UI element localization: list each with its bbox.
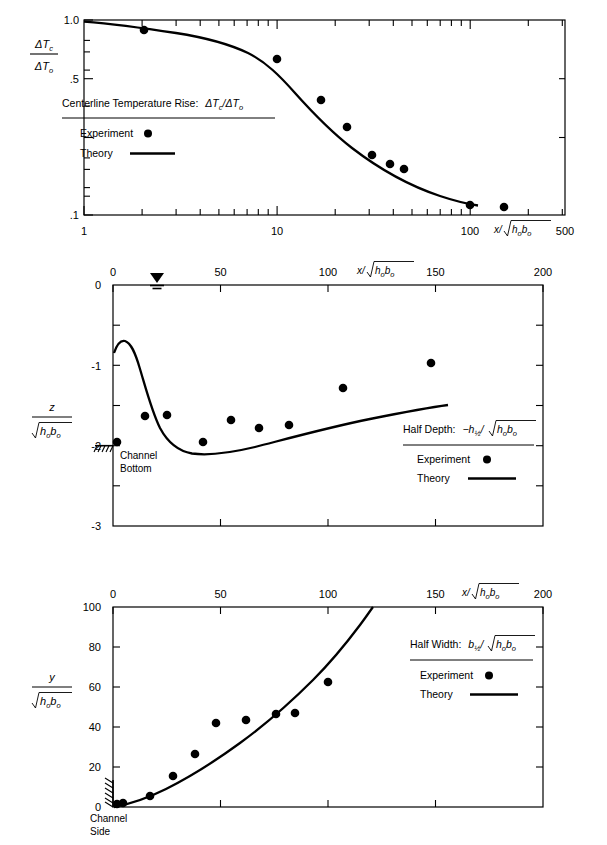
data-point (317, 96, 326, 105)
panel1-y-axis-title: ΔTc ΔTo (30, 38, 58, 75)
panel1-legend-title-text: Centerline Temperature Rise: (62, 97, 198, 109)
panel1-xtick-4: 500 (556, 225, 574, 237)
data-point (140, 26, 149, 35)
panel2-legend-slash: / (480, 423, 485, 435)
data-point (141, 412, 150, 421)
data-point (227, 416, 236, 425)
panel2-ylabel-num: z (48, 401, 55, 413)
panel2-ylabel-den-hb-sub: o (56, 431, 60, 440)
panel1-x-ticks-bottom (84, 206, 562, 215)
panel3-ytick-5: 20 (89, 761, 101, 773)
panel2-legend-experiment-marker (483, 456, 491, 464)
panel3-ytick-6: 0 (95, 801, 101, 813)
data-point (255, 424, 264, 433)
panel1-ylabel-den: ΔT (34, 60, 50, 72)
panel3-experiment-points (113, 678, 333, 809)
data-point (119, 799, 128, 808)
panel2-theory-curve (114, 341, 448, 455)
panel2-legend-title: Half Depth: −h½/ (403, 423, 485, 438)
panel2-legend-title-text: Half Depth: (403, 423, 456, 435)
panel3-theory-curve (114, 607, 373, 807)
panel2-y-ticks (113, 325, 543, 486)
panel2-legend-hb-sub: o (513, 429, 517, 438)
panel1-theory-curve (84, 22, 478, 206)
svg-text:hobo: hobo (512, 224, 531, 238)
data-point (146, 792, 155, 801)
panel3-legend-experiment-marker (485, 672, 493, 680)
panel2-ytick-4: -3 (91, 520, 101, 532)
svg-text:ΔTc: ΔTc (34, 38, 53, 53)
data-point (339, 384, 348, 393)
panel3-legend-title-text: Half Width: (410, 638, 461, 650)
svg-text:hobo: hobo (480, 587, 499, 601)
panel3-ytick-4: 40 (89, 721, 101, 733)
panel3-ytick-1: 100 (83, 601, 101, 613)
panel1-ylabel-num: ΔT (34, 38, 50, 50)
data-point (272, 710, 281, 719)
data-point (291, 709, 300, 718)
svg-text:x/: x/ (356, 265, 366, 276)
panel3-ytick-2: 80 (89, 641, 101, 653)
panel3-legend-experiment-label: Experiment (420, 669, 473, 681)
svg-text:hobo: hobo (375, 265, 394, 279)
panel1-xlabel-hb-sub: o (527, 229, 531, 238)
panel3-legend-hb-sub: o (512, 644, 516, 653)
panel2-xtick-4: 150 (426, 266, 444, 278)
panel2-experiment-points (113, 359, 436, 447)
panel2-legend-hhalf: −h (462, 423, 474, 435)
panel1-ylabel-den-sub: o (49, 66, 53, 75)
data-point (191, 750, 200, 759)
panel3-xlabel-lead: x/ (461, 587, 471, 598)
panel2-xlabel-lead: x/ (356, 265, 366, 276)
panel3-ylabel-num: y (48, 671, 56, 683)
data-point (285, 421, 294, 430)
data-point (169, 772, 178, 781)
svg-text:ΔTo: ΔTo (34, 60, 53, 75)
water-surface-triangle-icon (150, 273, 164, 289)
panel3-legend: Half Width: b½/ hobo Experiment Theory (410, 636, 535, 701)
data-point (199, 438, 208, 447)
panel1-legend-title: Centerline Temperature Rise: ΔTc/ΔTo (62, 97, 243, 112)
panel2-axes (113, 285, 543, 526)
panel1-legend-experiment-label: Experiment (80, 127, 133, 139)
data-point (273, 55, 282, 64)
panel3-xtick-1: 0 (110, 588, 116, 600)
panel3-legend-theory-label: Theory (420, 688, 453, 700)
figure-root: 1.0 .5 .1 1 10 100 500 ΔTc ΔTo x/ (0, 0, 607, 845)
panel3-xtick-4: 150 (426, 588, 444, 600)
panel3-xtick-3: 100 (319, 588, 337, 600)
panel1-legend-theory-label: Theory (80, 147, 113, 159)
panel2-xtick-2: 50 (214, 266, 226, 278)
panel1-ytick-2: .5 (70, 73, 79, 85)
panel2-x-axis-title: x/ hobo (356, 262, 414, 280)
panel2-ytick-1: 0 (95, 279, 101, 291)
data-point (163, 411, 172, 420)
panel3-legend-slash: / (479, 638, 484, 650)
svg-text:x/: x/ (493, 224, 503, 235)
data-point (368, 151, 377, 160)
data-point (427, 359, 436, 368)
svg-text:hobo: hobo (40, 695, 61, 710)
panel2-xtick-3: 100 (319, 266, 337, 278)
panel2-channel-bottom-line1: Channel (120, 450, 157, 461)
panel1-ytick-1: 1.0 (64, 14, 79, 26)
panel2-xlabel-hb-sub: o (390, 270, 394, 279)
panel2-x-ticks-bottom (221, 519, 436, 526)
panel2-legend-experiment-label: Experiment (417, 453, 470, 465)
data-point (343, 123, 352, 132)
panel3-x-ticks-bottom (221, 800, 436, 807)
panel2-legend-theory-label: Theory (417, 472, 450, 484)
svg-text:hobo: hobo (40, 425, 61, 440)
chart-panel-half-depth: 0 50 100 150 200 x/ hobo 0 -1 -2 -3 (0, 248, 607, 538)
panel2-ytick-2: -1 (91, 360, 101, 372)
panel3-ylabel-den-hb-sub: o (56, 701, 60, 710)
panel1-xlabel-lead: x/ (493, 224, 503, 235)
chart-panel-half-width: 0 50 100 150 200 x/ hobo 100 80 60 40 20… (0, 535, 607, 845)
panel1-legend-experiment-marker (144, 130, 152, 138)
data-point (212, 719, 221, 728)
panel1-x-ticks-top (142, 20, 562, 29)
panel2-x-ticks-top (113, 285, 543, 292)
panel1-ytick-3: .1 (70, 209, 79, 221)
panel1-legend-dTo-sub: o (239, 103, 243, 112)
data-point (242, 716, 251, 725)
